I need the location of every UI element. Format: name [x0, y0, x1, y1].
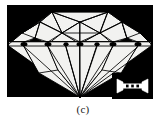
figure-container: (c) — [0, 0, 166, 125]
inset-marker-dot-2 — [131, 85, 134, 88]
inset-marker-dot-1 — [126, 85, 129, 88]
inset-marker-dot-group — [126, 85, 139, 88]
inset-marker-dot-3 — [136, 85, 139, 88]
figure-caption: (c) — [0, 103, 166, 116]
inset-bowtie-detail — [112, 73, 153, 99]
